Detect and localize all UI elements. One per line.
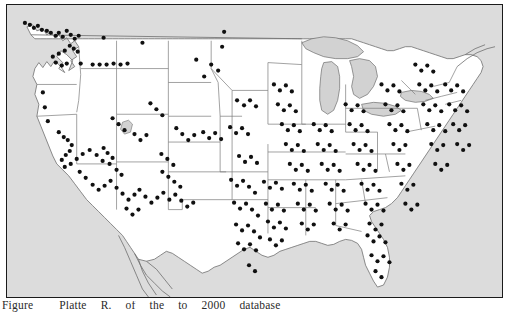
occurrence-dot	[262, 180, 266, 184]
occurrence-dot	[316, 142, 320, 146]
occurrence-dot	[235, 98, 239, 102]
occurrence-dot	[84, 176, 88, 180]
occurrence-dot	[278, 220, 282, 224]
occurrence-dot	[72, 47, 76, 51]
occurrence-dot	[344, 102, 348, 106]
occurrence-dot	[427, 108, 431, 112]
figure-caption: FigurePlatteR.oftheto2000database	[0, 301, 509, 312]
occurrence-dot	[266, 219, 270, 223]
occurrence-dot	[125, 62, 129, 66]
occurrence-dot	[194, 58, 198, 62]
occurrence-dot	[149, 201, 153, 205]
caption-word-6: database	[239, 301, 294, 311]
occurrence-dot	[165, 157, 169, 161]
occurrence-dot	[108, 179, 112, 183]
occurrence-dot	[81, 152, 85, 156]
occurrence-dot	[268, 237, 272, 241]
occurrence-dot	[361, 109, 365, 113]
occurrence-dot	[103, 184, 107, 188]
occurrence-dot	[61, 35, 65, 39]
occurrence-dot	[369, 208, 373, 212]
occurrence-dot	[64, 153, 68, 157]
occurrence-dot	[393, 128, 397, 132]
occurrence-dot	[122, 128, 126, 132]
occurrence-dot	[249, 155, 253, 159]
occurrence-dot	[137, 188, 141, 192]
occurrence-dot	[304, 183, 308, 187]
occurrence-dot	[166, 175, 170, 179]
occurrence-dot	[254, 248, 258, 252]
occurrence-dot	[284, 226, 288, 230]
occurrence-dot	[101, 159, 105, 163]
occurrence-dot	[381, 254, 385, 258]
occurrence-dot	[111, 62, 115, 66]
occurrence-dot	[324, 182, 328, 186]
occurrence-dot	[328, 202, 332, 206]
occurrence-dot	[268, 186, 272, 190]
occurrence-dot	[375, 259, 379, 263]
occurrence-dot	[253, 269, 257, 273]
occurrence-dot	[138, 138, 142, 142]
occurrence-dot	[369, 253, 373, 257]
occurrence-dot	[148, 101, 152, 105]
occurrence-dot	[242, 103, 246, 107]
occurrence-dot	[46, 119, 50, 123]
caption-lead: Figure	[2, 301, 59, 311]
occurrence-dot	[342, 189, 346, 193]
occurrence-dot	[247, 263, 251, 267]
occurrence-dot	[171, 163, 175, 167]
occurrence-dot	[179, 199, 183, 203]
occurrence-dot	[119, 173, 123, 177]
occurrence-dot	[69, 162, 73, 166]
occurrence-dot	[405, 129, 409, 133]
occurrence-dot	[41, 90, 45, 94]
occurrence-dot	[336, 183, 340, 187]
occurrence-dot	[57, 31, 61, 35]
occurrence-dot	[443, 129, 447, 133]
occurrence-dot	[250, 208, 254, 212]
occurrence-dot	[272, 225, 276, 229]
occurrence-dot	[373, 269, 377, 273]
occurrence-dot	[255, 161, 259, 165]
occurrence-dot	[256, 213, 260, 217]
occurrence-dot	[383, 102, 387, 106]
occurrence-dot	[435, 89, 439, 93]
occurrence-dot	[178, 185, 182, 189]
occurrence-dot	[252, 229, 256, 233]
occurrence-dot	[228, 125, 232, 129]
occurrence-dot	[54, 34, 58, 38]
occurrence-dot	[120, 192, 124, 196]
figure-page: FigurePlatteR.oftheto2000database	[0, 0, 509, 312]
occurrence-dot	[443, 82, 447, 86]
occurrence-dot	[282, 108, 286, 112]
occurrence-dot	[65, 29, 69, 33]
occurrence-dot	[62, 135, 66, 139]
occurrence-dot	[160, 113, 164, 117]
occurrence-dot	[132, 132, 136, 136]
occurrence-dot	[318, 128, 322, 132]
occurrence-dot	[107, 162, 111, 166]
occurrence-dot	[91, 63, 95, 67]
occurrence-dot	[377, 234, 381, 238]
occurrence-dot	[411, 183, 415, 187]
occurrence-dot	[280, 238, 284, 242]
occurrence-dot	[409, 208, 413, 212]
occurrence-dot	[280, 122, 284, 126]
occurrence-dot	[312, 222, 316, 226]
occurrence-dot	[97, 188, 101, 192]
occurrence-dot	[397, 89, 401, 93]
occurrence-dot	[32, 26, 36, 30]
occurrence-dot	[124, 207, 128, 211]
occurrence-dot	[140, 41, 144, 45]
occurrence-dot	[332, 163, 336, 167]
occurrence-dot	[425, 122, 429, 126]
occurrence-dot	[284, 83, 288, 87]
occurrence-dot	[363, 202, 367, 206]
occurrence-dot	[352, 142, 356, 146]
occurrence-dot	[116, 122, 120, 126]
occurrence-dot	[110, 116, 114, 120]
occurrence-dot	[95, 153, 99, 157]
occurrence-dot	[365, 233, 369, 237]
occurrence-dot	[437, 123, 441, 127]
occurrence-dot	[413, 63, 417, 67]
